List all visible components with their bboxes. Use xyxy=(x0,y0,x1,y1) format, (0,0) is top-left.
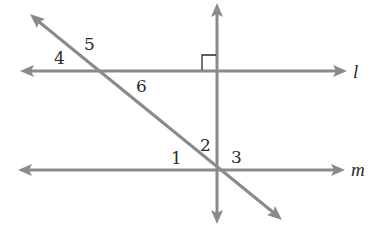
angle-label-1: 1 xyxy=(171,148,182,168)
line-l xyxy=(20,65,347,77)
angle-label-4: 4 xyxy=(54,48,65,68)
transversal-line xyxy=(30,14,282,220)
angle-label-2: 2 xyxy=(200,135,211,155)
angle-label-3: 3 xyxy=(231,147,242,167)
angle-label-6: 6 xyxy=(136,76,147,96)
line-label-l: l xyxy=(353,61,358,82)
right-angle-marker xyxy=(202,55,216,70)
vertical-line xyxy=(211,3,223,224)
line-label-m: m xyxy=(351,159,365,180)
angle-label-5: 5 xyxy=(84,34,95,54)
geometry-diagram: 4 5 6 1 2 3 l m xyxy=(0,0,376,231)
